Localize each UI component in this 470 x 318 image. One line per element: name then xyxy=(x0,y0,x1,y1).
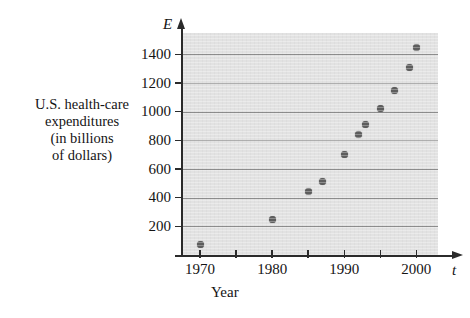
gridline xyxy=(182,198,438,199)
x-tick-mark xyxy=(199,250,200,258)
y-tick-label: 400 xyxy=(119,190,171,205)
x-tick-label: 1990 xyxy=(317,262,371,277)
y-axis-arrowhead-icon xyxy=(177,18,185,29)
data-point xyxy=(413,44,420,51)
y-tick-mark xyxy=(175,54,183,55)
x-axis-line xyxy=(175,255,453,257)
data-point xyxy=(269,216,276,223)
plot-texture-overlay xyxy=(182,33,438,255)
y-tick-mark xyxy=(175,226,183,227)
x-axis-arrowhead-icon xyxy=(452,251,463,259)
data-point xyxy=(362,121,369,128)
x-tick-mark xyxy=(307,250,308,258)
x-tick-mark xyxy=(271,250,272,258)
data-point xyxy=(319,178,326,185)
x-tick-label: 1980 xyxy=(245,262,299,277)
y-tick-label: 200 xyxy=(119,219,171,234)
y-tick-mark xyxy=(175,197,183,198)
y-axis-line xyxy=(181,27,183,256)
y-tick-label: 1400 xyxy=(119,47,171,62)
y-tick-label: 800 xyxy=(119,133,171,148)
x-axis-symbol: t xyxy=(452,262,456,279)
gridline xyxy=(182,226,438,227)
gridline xyxy=(182,54,438,55)
gridline xyxy=(182,83,438,84)
x-tick-mark xyxy=(235,250,236,258)
data-point xyxy=(197,241,204,248)
y-tick-mark xyxy=(175,140,183,141)
x-tick-mark xyxy=(416,250,417,258)
x-tick-mark xyxy=(344,250,345,258)
y-tick-mark xyxy=(175,111,183,112)
y-tick-mark xyxy=(175,82,183,83)
data-point xyxy=(305,188,312,195)
x-tick-label: 2000 xyxy=(389,262,443,277)
y-tick-label: 600 xyxy=(119,162,171,177)
health-care-expenditures-scatter-figure: U.S. health-care expenditures (in billio… xyxy=(0,0,470,318)
y-axis-symbol: E xyxy=(163,16,172,33)
x-tick-label: 1970 xyxy=(173,262,227,277)
plot-area xyxy=(182,33,438,255)
data-point xyxy=(406,64,413,71)
y-tick-label: 1200 xyxy=(119,76,171,91)
gridline xyxy=(182,140,438,141)
x-tick-mark xyxy=(380,250,381,258)
x-axis-caption: Year xyxy=(211,284,239,301)
data-point xyxy=(341,151,348,158)
data-point xyxy=(391,87,398,94)
data-point xyxy=(355,131,362,138)
gridline xyxy=(182,169,438,170)
y-tick-label: 1000 xyxy=(119,104,171,119)
y-tick-mark xyxy=(175,168,183,169)
gridline xyxy=(182,112,438,113)
